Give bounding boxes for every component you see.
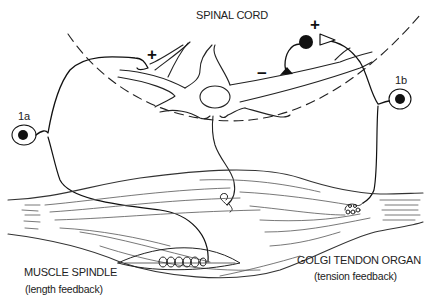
ia-label: 1a: [18, 110, 30, 122]
golgi-tendon-organ-label: GOLGI TENDON ORGAN: [297, 254, 421, 266]
muscle-spindle-function: (length feedback): [25, 283, 103, 295]
ib-afferent-neuron: [320, 34, 411, 203]
muscle-spindle-label: MUSCLE SPINDLE: [24, 266, 117, 278]
ib-excitatory-terminal: [320, 34, 335, 45]
ia-cell-body-nucleus: [18, 130, 28, 140]
ia-afferent-neuron: [12, 57, 208, 262]
ib-inhibitory-sign: −: [257, 65, 267, 82]
golgi-tendon-organ: [345, 203, 363, 214]
muscle-spindle: [118, 248, 240, 270]
ib-excitatory-sign: +: [310, 16, 320, 33]
spinal-cord-label: SPINAL CORD: [196, 9, 268, 21]
interneuron-soma: [299, 35, 313, 49]
inhibitory-interneuron: [280, 35, 313, 75]
ib-label: 1b: [395, 74, 407, 86]
golgi-tendon-organ-function: (tension feedback): [314, 270, 397, 282]
ib-cell-body-nucleus: [395, 94, 405, 104]
interneuron-inhibitory-terminal: [280, 67, 293, 75]
ia-excitatory-sign: +: [147, 46, 157, 63]
motor-axon: [212, 116, 234, 205]
motor-neuron-nucleus: [200, 86, 230, 108]
spinal-cord-boundary: [68, 15, 420, 121]
motor-end-plate: [220, 193, 232, 212]
